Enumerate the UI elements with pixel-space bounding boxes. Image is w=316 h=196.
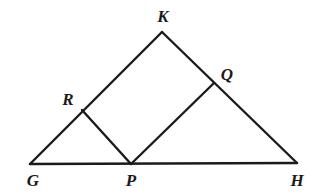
segment-side-GK — [30, 32, 162, 164]
figure-canvas — [0, 0, 316, 196]
segment-base-GH — [30, 163, 297, 164]
segment-chord-PQ — [131, 83, 214, 164]
vertex-label-Q: Q — [221, 66, 233, 83]
vertex-label-H: H — [290, 172, 303, 189]
vertex-label-G: G — [27, 172, 39, 189]
segment-chord-RP — [82, 110, 131, 164]
vertex-label-P: P — [126, 172, 136, 189]
segment-side-KH — [162, 32, 297, 163]
vertex-label-R: R — [62, 91, 73, 108]
geometry-figure: K Q R G P H — [0, 0, 316, 196]
vertex-label-K: K — [157, 8, 168, 25]
